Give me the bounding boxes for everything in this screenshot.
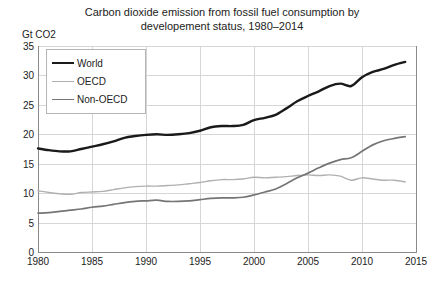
legend-swatch-icon — [52, 99, 74, 100]
chart-legend: WorldOECDNon-OECD — [46, 49, 146, 114]
chart-title: Carbon dioxide emission from fossil fuel… — [0, 5, 444, 33]
x-tick-label: 1985 — [70, 256, 114, 267]
legend-item-oecd[interactable]: OECD — [52, 72, 140, 90]
x-tick-label: 1995 — [178, 256, 222, 267]
legend-swatch-icon — [52, 62, 74, 64]
x-tick-label: 2015 — [394, 256, 438, 267]
y-tick-label: 20 — [4, 129, 34, 140]
x-tick-label: 2000 — [232, 256, 276, 267]
series-line-non-oecd — [38, 137, 405, 214]
axis-bottom — [38, 252, 417, 253]
x-axis-tick-labels: 19801985199019952000200520102015 — [38, 256, 417, 272]
y-tick-label: 30 — [4, 70, 34, 81]
y-tick-label: 15 — [4, 158, 34, 169]
legend-label: Non-OECD — [77, 94, 128, 105]
y-tick-label: 25 — [4, 99, 34, 110]
series-line-oecd — [38, 175, 405, 194]
y-tick-label: 5 — [4, 217, 34, 228]
legend-label: OECD — [77, 76, 106, 87]
x-tick-label: 2005 — [286, 256, 330, 267]
y-tick-label: 10 — [4, 188, 34, 199]
x-tick-label: 2010 — [340, 256, 384, 267]
chart-figure: Carbon dioxide emission from fossil fuel… — [0, 0, 444, 282]
legend-item-world[interactable]: World — [52, 54, 140, 72]
legend-label: World — [77, 58, 103, 69]
legend-item-non-oecd[interactable]: Non-OECD — [52, 90, 140, 108]
y-axis-tick-labels: 05101520253035 — [0, 46, 34, 252]
legend-swatch-icon — [52, 81, 74, 82]
x-tick-label: 1990 — [124, 256, 168, 267]
y-axis-unit-label: Gt CO2 — [22, 29, 56, 40]
y-tick-label: 35 — [4, 41, 34, 52]
x-tick-label: 1980 — [16, 256, 60, 267]
